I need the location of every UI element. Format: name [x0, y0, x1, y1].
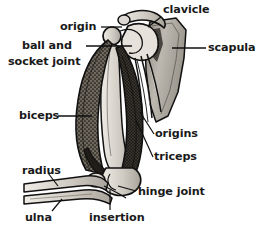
anatomy-figure: origin ball and socket joint clavicle sc… — [0, 0, 259, 243]
label-radius: radius — [22, 165, 61, 178]
label-ball-and: ball and — [22, 40, 72, 53]
label-origins: origins — [155, 128, 198, 141]
label-triceps: triceps — [154, 151, 197, 164]
label-clavicle: clavicle — [163, 4, 209, 17]
label-ulna: ulna — [25, 212, 52, 225]
label-hinge-joint: hinge joint — [138, 186, 205, 199]
label-biceps: biceps — [19, 110, 59, 123]
label-insertion: insertion — [89, 212, 145, 225]
label-scapula: scapula — [208, 42, 256, 55]
label-origin: origin — [60, 21, 96, 34]
label-socket-joint: socket joint — [8, 56, 80, 69]
